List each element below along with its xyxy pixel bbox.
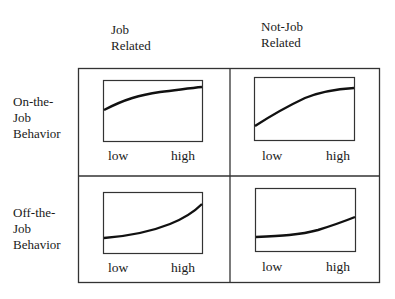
axis-label-high: high (171, 149, 195, 163)
chart-on-not-job-related (255, 78, 355, 141)
axis-label-high: high (171, 261, 195, 275)
chart-box (104, 193, 203, 254)
chart-off-job-related (104, 193, 203, 254)
trend-curve (256, 217, 355, 237)
axis-label-high: high (326, 149, 350, 163)
chart-on-job-related (104, 81, 203, 142)
axis-label-low: low (108, 149, 128, 163)
trend-curve (104, 87, 202, 110)
trend-curve (255, 88, 354, 126)
trend-curve (104, 204, 202, 238)
chart-box (255, 78, 355, 141)
axis-label-low: low (262, 149, 282, 163)
axis-label-high: high (326, 260, 350, 274)
chart-off-not-job-related (256, 189, 356, 252)
axis-label-low: low (262, 260, 282, 274)
axis-label-low: low (108, 261, 128, 275)
chart-box (256, 189, 356, 252)
